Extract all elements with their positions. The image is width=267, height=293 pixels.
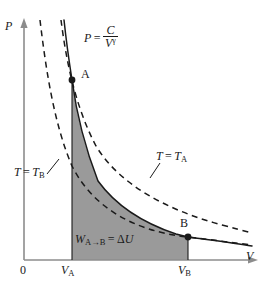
- leader-line-TB: [47, 159, 59, 174]
- isotherm-TA-subscript: A: [181, 154, 187, 164]
- x-tick-vb-subscript: B: [185, 268, 191, 278]
- adiabat-gamma-exponent: γ: [112, 37, 116, 46]
- point-A-marker: [69, 77, 76, 84]
- point-B-marker: [185, 234, 192, 241]
- work-label-equals: =: [108, 232, 115, 246]
- work-area-label: WA→B = ΔU: [75, 233, 133, 246]
- x-tick-label-va: VA: [61, 264, 74, 277]
- x-axis-label: V: [246, 250, 253, 262]
- leader-line-TA: [150, 163, 160, 178]
- y-axis-arrow: [20, 18, 27, 28]
- work-label-delta: Δ: [117, 232, 125, 246]
- isotherm-TA-equals: =: [165, 149, 172, 163]
- adiabat-denominator: Vγ: [103, 36, 118, 49]
- adiabat-numerator: C: [103, 24, 118, 36]
- adiabat-equals: =: [94, 31, 101, 45]
- pv-diagram-figure: P V 0 VA VB A B P = CVγ T = TB T = TA WA…: [0, 0, 267, 293]
- point-A-label: A: [81, 68, 90, 80]
- work-label-sub-to: B: [100, 237, 106, 247]
- isotherm-TB-subscript: B: [39, 170, 45, 180]
- x-tick-va-subscript: A: [68, 268, 74, 278]
- point-B-label: B: [180, 217, 188, 229]
- work-label-arrow: →: [91, 237, 100, 247]
- isotherm-TB-equals: =: [23, 165, 30, 179]
- adiabat-fraction: CVγ: [103, 24, 118, 49]
- adiabat-equation-label: P = CVγ: [84, 24, 118, 49]
- x-tick-label-vb: VB: [178, 264, 191, 277]
- y-axis-label: P: [5, 20, 12, 32]
- origin-label: 0: [20, 264, 26, 276]
- pv-diagram-svg: [0, 0, 267, 293]
- isotherm-TA-label: T = TA: [156, 150, 187, 163]
- isotherm-TB-label: T = TB: [14, 166, 45, 179]
